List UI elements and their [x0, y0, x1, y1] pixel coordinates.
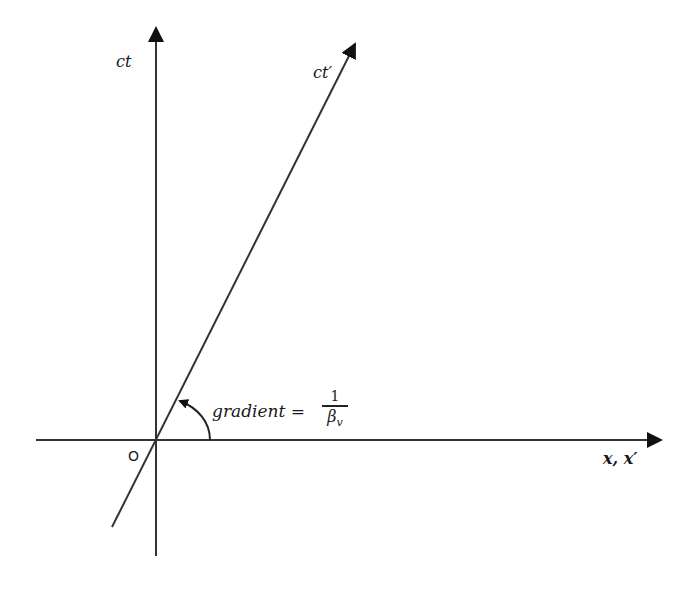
fraction-denominator-subscript: v — [337, 416, 343, 429]
fraction-numerator: 1 — [322, 388, 348, 404]
ct-prime-axis-label: ct′ — [313, 63, 332, 82]
spacetime-diagram — [0, 0, 683, 594]
gradient-label: gradient = — [212, 401, 305, 421]
x-axis-label: x, x′ — [603, 449, 637, 468]
ct-prime-axis — [112, 44, 355, 527]
origin-label: O — [128, 448, 139, 464]
angle-arc-arrow — [180, 401, 210, 440]
gradient-fraction: 1 βv — [322, 388, 348, 432]
ct-axis-label: ct — [116, 52, 131, 71]
fraction-denominator-symbol: β — [327, 407, 336, 426]
